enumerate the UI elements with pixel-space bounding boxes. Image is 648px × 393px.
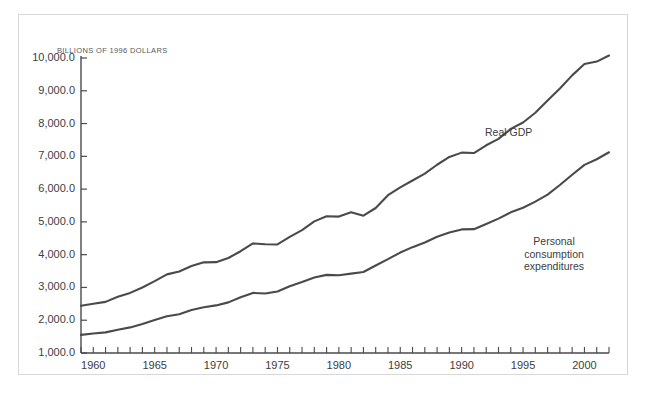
series-annotation-real-gdp: Real GDP [485, 126, 532, 139]
y-axis-tick-label: 10,000.0 [17, 51, 75, 63]
figure-frame: BILLIONS OF 1996 DOLLARS Real GDP Person… [18, 14, 628, 375]
y-axis-tick-label: 1,000.0 [17, 346, 75, 358]
y-axis-tick-label: 5,000.0 [17, 215, 75, 227]
x-axis-tick-label: 2000 [561, 359, 607, 371]
y-axis-tick-label: 4,000.0 [17, 248, 75, 260]
x-axis-tick-label: 1985 [377, 359, 423, 371]
y-axis-tick-label: 8,000.0 [17, 117, 75, 129]
data-series-group [81, 56, 609, 335]
x-axis-tick-label: 1990 [439, 359, 485, 371]
y-axis-tick-label: 2,000.0 [17, 313, 75, 325]
y-axis-tick-label: 7,000.0 [17, 149, 75, 161]
chart-page: BILLIONS OF 1996 DOLLARS Real GDP Person… [0, 0, 648, 393]
series-annotation-personal-consumption-expenditures: Personal consumption expenditures [524, 235, 584, 273]
x-axis-tick-label: 1995 [500, 359, 546, 371]
line-chart-plot [19, 15, 627, 374]
x-axis-ticks [81, 347, 609, 353]
y-axis-tick-label: 3,000.0 [17, 280, 75, 292]
y-axis-tick-label: 6,000.0 [17, 182, 75, 194]
y-axis-tick-label: 9,000.0 [17, 84, 75, 96]
x-axis-tick-label: 1965 [132, 359, 178, 371]
x-axis-tick-label: 1960 [70, 359, 116, 371]
x-axis-tick-label: 1970 [193, 359, 239, 371]
x-axis-tick-label: 1975 [254, 359, 300, 371]
y-axis-ticks [81, 58, 87, 353]
x-axis-tick-label: 1980 [316, 359, 362, 371]
